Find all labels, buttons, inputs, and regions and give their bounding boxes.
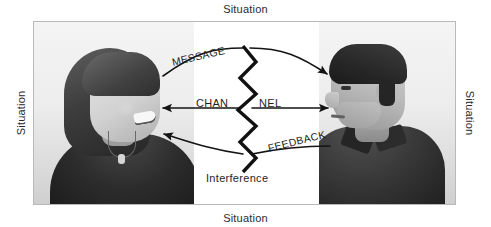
label-interference: Interference: [206, 172, 268, 184]
message-arrow-outbound: [250, 48, 327, 74]
label-channel-left: CHAN: [196, 97, 228, 109]
figure-canvas: Situation Situation Situation Situation: [0, 0, 491, 227]
feedback-arrow-outbound: [164, 134, 243, 154]
label-channel-right: NEL: [259, 97, 281, 109]
diagram-overlay: [0, 0, 491, 227]
